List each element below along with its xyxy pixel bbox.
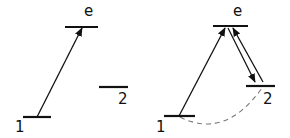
level-label-1: 1 bbox=[15, 118, 25, 136]
panel-lambda-system: e12 bbox=[156, 2, 275, 136]
emission-e-to-2-arrow-icon bbox=[228, 28, 255, 82]
level-label-e: e bbox=[233, 2, 242, 20]
excitation-2-to-e-arrow-icon bbox=[233, 28, 263, 82]
level-label-2: 2 bbox=[118, 90, 128, 108]
level-label-1: 1 bbox=[156, 118, 166, 136]
level-label-2: 2 bbox=[263, 90, 273, 108]
excitation-1-to-e-arrow-icon bbox=[179, 28, 225, 116]
diagram-canvas: e12 e12 bbox=[0, 0, 290, 138]
coherence-1-2-dashed-curve bbox=[180, 88, 262, 124]
level-label-e: e bbox=[84, 2, 93, 20]
excitation-1-to-e-arrow-icon bbox=[37, 28, 82, 117]
panel-two-level: e12 bbox=[15, 2, 128, 136]
energy-level-diagram: e12 e12 bbox=[0, 0, 290, 138]
